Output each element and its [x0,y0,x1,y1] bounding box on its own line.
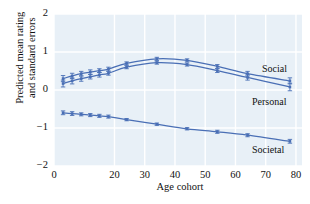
x-tick-label: 60 [222,169,248,180]
data-point-marker [186,59,189,62]
data-point-marker [125,118,128,121]
data-point-marker [216,69,219,72]
data-point-marker [156,123,159,126]
y-tick-label: −1 [26,121,48,132]
x-tick-label: 40 [162,169,188,180]
data-point-marker [98,69,101,72]
x-tick-label: 0 [41,169,67,180]
data-point-marker [80,72,83,75]
data-point-marker [62,82,65,85]
data-point-marker [80,77,83,80]
x-tick-label: 30 [132,169,158,180]
data-point-marker [216,131,219,134]
data-point-marker [216,65,219,68]
data-point-marker [80,113,83,116]
x-tick-label: 20 [101,169,127,180]
series-label-personal: Personal [252,96,286,107]
data-point-marker [71,80,74,83]
data-point-marker [98,74,101,77]
data-point-marker [107,115,110,118]
series-label-social: Social [262,63,287,74]
data-point-marker [98,115,101,118]
data-point-marker [186,127,189,130]
data-point-marker [289,86,292,89]
data-point-marker [71,112,74,115]
data-point-marker [89,71,92,74]
data-point-marker [156,58,159,61]
y-tick-label: 2 [26,7,48,18]
data-point-marker [246,76,249,79]
data-point-marker [156,61,159,64]
data-point-marker [289,80,292,83]
data-point-marker [246,134,249,137]
y-axis-label: Predicted mean rating and standard error… [14,0,38,128]
data-point-marker [89,114,92,117]
x-tick-label: 50 [192,169,218,180]
data-point-marker [62,112,65,115]
chart-figure: Predicted mean rating and standard error… [0,0,310,204]
data-point-marker [125,62,128,65]
x-tick-label: 70 [253,169,279,180]
x-axis-label: Age cohort [52,181,308,192]
data-point-marker [107,68,110,71]
data-point-marker [125,66,128,69]
data-point-marker [62,77,65,80]
data-point-marker [289,140,292,143]
series-label-societal: Societal [252,144,284,155]
data-point-marker [71,75,74,78]
data-point-marker [186,63,189,66]
data-point-marker [89,75,92,78]
y-tick-label: 1 [26,45,48,56]
data-point-marker [107,72,110,75]
y-tick-label: 0 [26,83,48,94]
x-tick-label: 80 [283,169,309,180]
